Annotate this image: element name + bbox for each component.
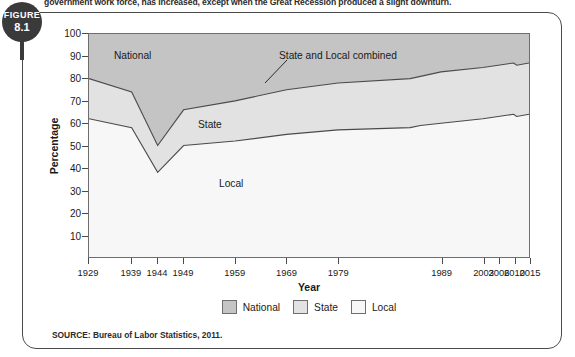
y-tick-mark	[82, 123, 88, 124]
chart-legend: NationalStateLocal	[88, 300, 530, 314]
legend-swatch-icon	[293, 300, 308, 314]
y-tick-mark	[82, 146, 88, 147]
legend-label: Local	[372, 302, 396, 313]
annotation-state-and-local-combined: State and Local combined	[279, 50, 397, 61]
y-tick-mark	[82, 78, 88, 79]
figure-badge-word: FIGURE	[2, 10, 42, 20]
annotation-national: National	[114, 50, 151, 61]
chart-container: Percentage Year 102030405060708090100 19…	[88, 33, 530, 258]
x-tick-mark	[442, 258, 443, 264]
y-tick-mark	[82, 168, 88, 169]
y-tick-mark	[82, 101, 88, 102]
annotation-state: State	[198, 119, 222, 130]
x-tick-label: 1969	[276, 267, 297, 278]
y-tick-mark	[82, 33, 88, 34]
x-tick-mark	[484, 258, 485, 264]
x-tick-mark	[157, 258, 158, 264]
y-tick-label: 90	[55, 50, 81, 61]
figure-badge-number: 8.1	[2, 21, 42, 33]
y-tick-label: 30	[55, 185, 81, 196]
legend-label: National	[243, 302, 280, 313]
x-tick-label: 1939	[120, 267, 141, 278]
x-tick-mark	[183, 258, 184, 264]
y-tick-label: 80	[55, 73, 81, 84]
y-tick-label: 20	[55, 208, 81, 219]
y-tick-mark	[82, 56, 88, 57]
x-tick-mark	[131, 258, 132, 264]
x-tick-label: 1979	[328, 267, 349, 278]
figure-caption: government work force, has increased, ex…	[44, 0, 568, 10]
x-tick-label: 1989	[431, 267, 452, 278]
legend-item-local[interactable]: Local	[351, 300, 396, 314]
x-tick-mark	[88, 258, 89, 264]
figure-badge: FIGURE 8.1	[2, 2, 42, 42]
figure-badge-stem	[20, 40, 24, 60]
y-tick-label: 50	[55, 140, 81, 151]
x-tick-mark	[515, 258, 516, 264]
annotation-leader-line	[263, 59, 289, 85]
legend-item-state[interactable]: State	[293, 300, 338, 314]
x-tick-mark	[530, 258, 531, 264]
y-tick-mark	[82, 236, 88, 237]
x-tick-mark	[235, 258, 236, 264]
x-tick-mark	[499, 258, 500, 264]
x-axis-title: Year	[298, 281, 320, 293]
annotation-local: Local	[219, 178, 243, 189]
y-tick-label: 10	[55, 230, 81, 241]
plot-area	[88, 33, 530, 258]
legend-label: State	[314, 302, 338, 313]
area-chart-svg	[89, 34, 529, 257]
x-tick-label: 1949	[173, 267, 194, 278]
x-tick-mark	[338, 258, 339, 264]
y-tick-label: 60	[55, 118, 81, 129]
x-tick-label: 1959	[224, 267, 245, 278]
y-tick-label: 100	[55, 28, 81, 39]
source-line: SOURCE: Bureau of Labor Statistics, 2011…	[52, 330, 222, 340]
legend-item-national[interactable]: National	[222, 300, 280, 314]
x-tick-label: 1929	[78, 267, 99, 278]
x-tick-label: 1944	[147, 267, 168, 278]
y-tick-mark	[82, 213, 88, 214]
y-tick-label: 40	[55, 163, 81, 174]
legend-swatch-icon	[351, 300, 366, 314]
figure-caption-text: government work force, has increased, ex…	[44, 0, 568, 8]
x-tick-label: 2015	[520, 267, 541, 278]
y-tick-mark	[82, 191, 88, 192]
x-tick-mark	[286, 258, 287, 264]
legend-swatch-icon	[222, 300, 237, 314]
y-tick-label: 70	[55, 95, 81, 106]
